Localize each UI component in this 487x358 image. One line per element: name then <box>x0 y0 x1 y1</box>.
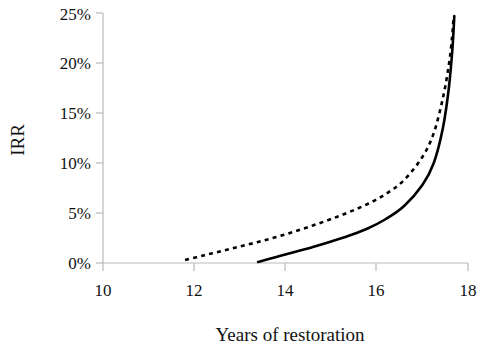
y-tick-label-0: 0% <box>68 254 91 273</box>
y-tick-label-2: 10% <box>60 154 91 173</box>
x-tick-label-4: 18 <box>460 281 477 300</box>
y-axis-title: IRR <box>7 124 28 156</box>
x-tick-label-2: 14 <box>277 281 295 300</box>
x-tick-label-3: 16 <box>368 281 385 300</box>
x-axis-title: Years of restoration <box>216 324 365 345</box>
y-tick-label-5: 25% <box>60 5 91 24</box>
y-tick-label-1: 5% <box>68 204 91 223</box>
y-tick-label-3: 15% <box>60 104 91 123</box>
irr-vs-years-line-chart: 0% 5% 10% 15% 20% 25% 10 12 14 16 18 Yea… <box>0 0 487 358</box>
y-tick-label-4: 20% <box>60 54 91 73</box>
x-tick-label-1: 12 <box>186 281 203 300</box>
chart-figure: 0% 5% 10% 15% 20% 25% 10 12 14 16 18 Yea… <box>0 0 487 358</box>
x-tick-label-0: 10 <box>95 281 112 300</box>
